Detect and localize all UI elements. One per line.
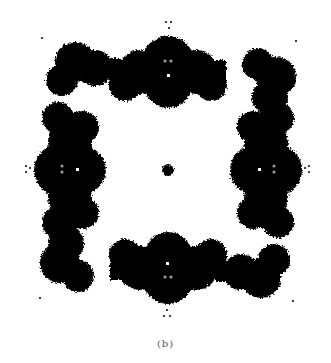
figure-caption: (b) [0, 338, 331, 349]
fractal-figure [0, 0, 331, 340]
